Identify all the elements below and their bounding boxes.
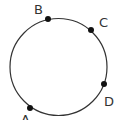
main-circle	[10, 19, 107, 116]
point-a-dot	[27, 105, 33, 111]
point-d-label: D	[104, 94, 114, 109]
point-d: D	[101, 81, 114, 109]
point-b: B	[34, 2, 51, 22]
point-c-label: C	[99, 15, 108, 30]
point-c: C	[88, 15, 108, 33]
point-c-dot	[88, 27, 94, 33]
point-d-dot	[101, 81, 107, 87]
point-a-label: A	[21, 112, 30, 120]
point-a: A	[21, 105, 33, 120]
circle-diagram: A B C D	[0, 0, 118, 120]
point-b-label: B	[34, 2, 43, 17]
point-b-dot	[45, 16, 51, 22]
